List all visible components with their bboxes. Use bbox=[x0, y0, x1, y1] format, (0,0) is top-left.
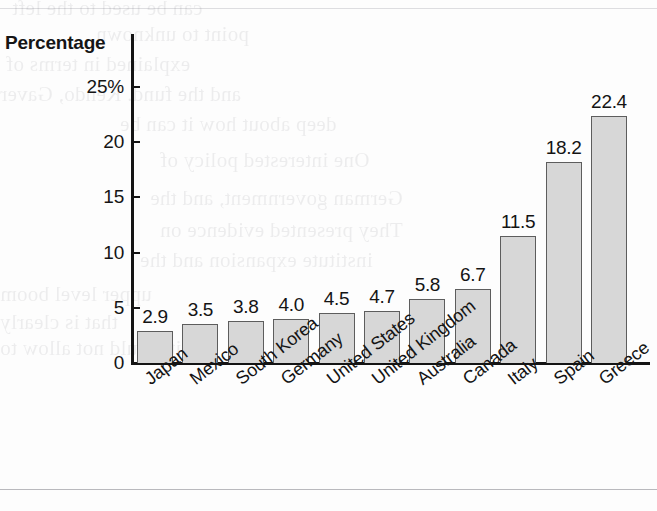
bar bbox=[546, 162, 582, 363]
bar-value-label: 22.4 bbox=[579, 91, 639, 113]
bar-value-label: 6.7 bbox=[443, 264, 503, 286]
chart-page: can be used to the left point to unknown… bbox=[0, 0, 657, 511]
bar-chart: Percentage 0510152025% 2.93.53.84.04.54.… bbox=[0, 0, 657, 511]
bar-series: 2.93.53.84.04.54.75.86.711.518.222.4 bbox=[0, 0, 657, 511]
bar bbox=[591, 116, 627, 363]
bar-value-label: 18.2 bbox=[534, 137, 594, 159]
bar-value-label: 11.5 bbox=[488, 211, 548, 233]
